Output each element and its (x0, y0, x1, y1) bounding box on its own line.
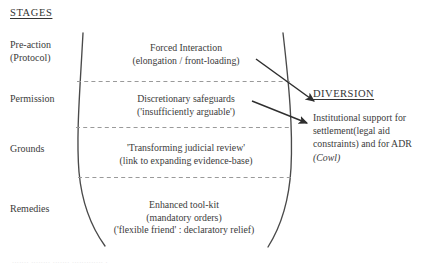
band-text-grounds: 'Transforming judicial review' (link to … (90, 142, 282, 167)
band-text-pre-action: Forced Interaction (elongation / front-l… (96, 42, 276, 67)
diversion-body: Institutional support for settlement(leg… (313, 111, 412, 164)
band-text-permission: Discretionary safeguards ('insufficientl… (96, 93, 276, 118)
band-text-pre-action-line1: Forced Interaction (96, 42, 276, 55)
band-text-grounds-line2: (link to expanding evidence-base) (90, 155, 282, 168)
stage-label-grounds-line1: Grounds (10, 143, 44, 154)
band-text-permission-line1: Discretionary safeguards (96, 93, 276, 106)
stage-label-grounds: Grounds (10, 143, 44, 156)
diversion-body-line3: constraints) and for ADR (313, 137, 412, 150)
diagram-canvas: STAGES Pre-action (Protocol) Permission … (0, 0, 433, 266)
stage-label-permission-line1: Permission (10, 93, 54, 104)
band-text-pre-action-line2: (elongation / front-loading) (96, 55, 276, 68)
diversion-body-line2: settlement(legal aid (313, 124, 412, 137)
band-text-grounds-line1: 'Transforming judicial review' (90, 142, 282, 155)
diversion-body-citation: (Cowl) (313, 151, 412, 164)
stage-label-pre-action: Pre-action (Protocol) (10, 39, 51, 65)
stages-heading: STAGES (10, 6, 52, 19)
diversion-body-line1: Institutional support for (313, 111, 412, 124)
stage-label-permission: Permission (10, 93, 54, 106)
stage-label-pre-action-line2: (Protocol) (10, 52, 51, 65)
footer-ghost-text: ....... ........ ....... ............. . (12, 256, 108, 265)
band-text-permission-line2: ('insufficiently arguable') (96, 106, 276, 119)
band-text-remedies: Enhanced tool-kit (mandatory orders) ('f… (84, 199, 284, 237)
stage-label-remedies: Remedies (10, 203, 49, 216)
stage-label-remedies-line1: Remedies (10, 203, 49, 214)
band-text-remedies-line3: ('flexible friend' : declaratory relief) (84, 224, 284, 237)
stage-label-pre-action-line1: Pre-action (10, 39, 51, 50)
band-text-remedies-line2: (mandatory orders) (84, 212, 284, 225)
diversion-heading: DIVERSION (313, 87, 374, 100)
band-text-remedies-line1: Enhanced tool-kit (84, 199, 284, 212)
